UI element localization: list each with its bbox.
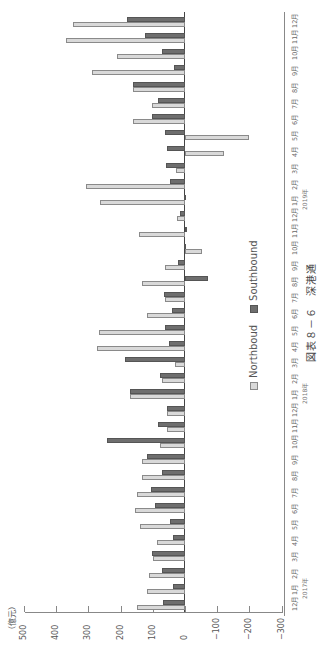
bar-northbound xyxy=(175,362,185,367)
bar-southbound xyxy=(185,276,208,281)
bar-northbound xyxy=(152,103,185,108)
category-label: 5月 xyxy=(289,519,299,530)
bar-northbound xyxy=(117,54,185,59)
bar-northbound xyxy=(73,22,185,27)
bar-chart: （億元） 5004003002001000−100−200−300 12月1月2… xyxy=(0,0,327,661)
category-label: 8月 xyxy=(289,470,299,481)
bar-northbound xyxy=(157,540,185,545)
bar-northbound xyxy=(133,119,185,124)
category-label: 7月 xyxy=(289,292,299,303)
category-label: 5月 xyxy=(289,324,299,335)
bar-northbound xyxy=(133,87,185,92)
value-axis-tick xyxy=(88,606,89,612)
value-axis-tick-label: −100 xyxy=(212,618,221,640)
category-label: 10月 xyxy=(289,434,299,449)
category-label: 6月 xyxy=(289,308,299,319)
bar-northbound xyxy=(92,70,185,75)
bar-northbound xyxy=(97,346,185,351)
category-label: 10月 xyxy=(289,45,299,60)
category-label: 8月 xyxy=(289,81,299,92)
bar-northbound xyxy=(147,589,185,594)
value-axis-tick-label: 300 xyxy=(83,625,92,640)
bar-northbound xyxy=(130,394,185,399)
category-label: 2月 xyxy=(289,179,299,190)
category-label: 9月 xyxy=(289,454,299,465)
value-axis-line xyxy=(25,612,283,613)
bar-northbound xyxy=(185,135,249,140)
y-axis-unit-label: （億元） xyxy=(6,602,17,634)
year-label: 2018年 xyxy=(300,383,309,404)
category-label: 11月 xyxy=(289,418,299,433)
value-axis-tick xyxy=(217,606,218,612)
legend-label-northbound: Northboud xyxy=(248,325,259,378)
bar-northbound xyxy=(100,200,185,205)
value-axis-tick-label: −200 xyxy=(244,618,253,640)
bar-northbound xyxy=(142,459,185,464)
value-axis-tick xyxy=(121,606,122,612)
year-label: 2017年 xyxy=(300,578,309,599)
category-label: 4月 xyxy=(289,341,299,352)
bar-northbound xyxy=(165,297,185,302)
bar-northbound xyxy=(160,443,185,448)
category-label: 1月 xyxy=(289,584,299,595)
legend: Northboud Southbound xyxy=(248,240,259,390)
value-axis-tick xyxy=(282,606,283,612)
bar-northbound xyxy=(177,216,185,221)
category-label: 3月 xyxy=(289,162,299,173)
category-label: 4月 xyxy=(289,146,299,157)
legend-swatch-southbound xyxy=(250,305,258,313)
category-label: 7月 xyxy=(289,98,299,109)
bar-southbound xyxy=(165,130,185,135)
category-label: 9月 xyxy=(289,65,299,76)
bar-northbound xyxy=(137,492,185,497)
category-label: 1月 xyxy=(289,195,299,206)
category-label: 9月 xyxy=(289,260,299,271)
bar-northbound xyxy=(176,168,185,173)
category-label: 10月 xyxy=(289,239,299,254)
legend-swatch-northbound xyxy=(250,382,258,390)
value-axis-tick xyxy=(56,606,57,612)
bar-southbound xyxy=(167,146,185,151)
category-label: 5月 xyxy=(289,130,299,141)
category-label: 7月 xyxy=(289,486,299,497)
year-label: 2019年 xyxy=(300,189,309,210)
bar-northbound xyxy=(167,427,185,432)
chart-title: 図表８－６ 深港通 xyxy=(303,263,318,362)
bar-northbound xyxy=(147,313,185,318)
bar-northbound xyxy=(137,605,185,610)
category-label: 11月 xyxy=(289,29,299,44)
bar-northbound xyxy=(86,184,185,189)
category-axis-line xyxy=(284,12,285,616)
bar-northbound xyxy=(66,38,185,43)
category-label: 1月 xyxy=(289,389,299,400)
category-label: 4月 xyxy=(289,535,299,546)
bar-northbound xyxy=(165,265,185,270)
bar-northbound xyxy=(149,573,185,578)
value-axis-tick xyxy=(249,606,250,612)
category-label: 8月 xyxy=(289,276,299,287)
category-label: 3月 xyxy=(289,357,299,368)
category-label: 2月 xyxy=(289,373,299,384)
value-axis-tick-label: 200 xyxy=(116,625,125,640)
legend-label-southbound: Southbound xyxy=(248,240,259,301)
value-axis-tick-label: −300 xyxy=(277,618,286,640)
category-label: 6月 xyxy=(289,503,299,514)
value-axis-tick-label: 100 xyxy=(148,625,157,640)
value-axis-tick xyxy=(24,606,25,612)
category-label: 11月 xyxy=(289,223,299,238)
bar-northbound xyxy=(142,281,185,286)
category-label: 3月 xyxy=(289,551,299,562)
bar-northbound xyxy=(139,232,185,237)
value-axis-tick-label: 0 xyxy=(180,635,189,640)
bar-northbound xyxy=(162,378,185,383)
value-axis-tick-label: 500 xyxy=(19,625,28,640)
bar-northbound xyxy=(135,508,185,513)
bar-northbound xyxy=(153,556,185,561)
category-label: 6月 xyxy=(289,114,299,125)
bar-southbound xyxy=(185,227,187,232)
value-axis-tick xyxy=(185,606,186,612)
category-label: 12月 xyxy=(289,207,299,222)
category-label: 2月 xyxy=(289,567,299,578)
category-label: 12月 xyxy=(289,13,299,28)
bar-northbound xyxy=(185,249,202,254)
